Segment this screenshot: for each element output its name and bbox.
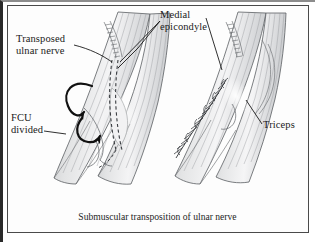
- label-triceps: Triceps: [263, 119, 295, 131]
- left-arm-figure: [54, 12, 170, 184]
- leader-fcu-divided: [44, 131, 66, 134]
- label-transposed-ulnar-nerve: Transposed ulnar nerve: [16, 33, 65, 57]
- leader-medial-epicondyle-right: [206, 18, 222, 70]
- right-arm-figure: [174, 12, 286, 184]
- label-medial-epicondyle: Medial epicondyle: [160, 9, 207, 33]
- label-fcu-divided: FCU divided: [11, 112, 43, 136]
- figure-caption: Submuscular transposition of ulnar nerve: [0, 211, 315, 222]
- figure-root: Transposed ulnar nerve Medial epicondyle…: [0, 0, 315, 242]
